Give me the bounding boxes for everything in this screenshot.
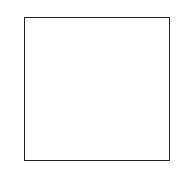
puzzle-diagram [0,0,194,181]
board-grid [24,17,170,161]
